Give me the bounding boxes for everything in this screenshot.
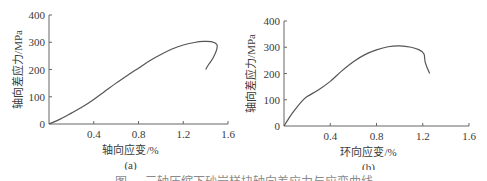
panel-b-stress-strain-curve: [284, 46, 430, 126]
x-tick-label: 0.8: [132, 128, 146, 140]
panel-b-x-axis-label: 环向应变/%: [340, 145, 396, 158]
y-tick-label: 100: [264, 94, 281, 106]
panel-a-stress-strain-curve: [49, 41, 217, 124]
panel-b-y-axis-label: 轴向差应力/MPa: [245, 34, 257, 113]
x-tick-label: 1.2: [416, 130, 430, 142]
y-tick-label: 200: [264, 68, 281, 80]
x-tick-label: 0.4: [323, 130, 337, 142]
y-tick-label: 400: [29, 9, 46, 21]
y-tick-label: 400: [264, 15, 281, 27]
x-tick-label: 1.6: [221, 128, 235, 140]
y-tick-label: 300: [264, 41, 281, 53]
stress-strain-plot-a: 01002003004000.40.81.21.6轴向应变/%轴向差应力/MPa…: [0, 0, 245, 170]
figure-caption: 图 … 三轴压缩下砂岩样块轴向差应力与应变曲线: [0, 175, 487, 181]
x-tick-label: 1.6: [462, 130, 476, 142]
x-tick-label: 1.2: [176, 128, 190, 140]
x-tick-label: 0.8: [370, 130, 384, 142]
figure-caption-clipped: 图 … 三轴压缩下砂岩样块轴向差应力与应变曲线: [0, 175, 487, 181]
panel-a-x-axis-label: 轴向应变/%: [102, 143, 158, 156]
stress-strain-plot-b: 01002003004000.40.81.21.6环向应变/%轴向差应力/MPa…: [245, 0, 487, 170]
y-tick-label: 200: [29, 64, 46, 76]
panel-b-panel-label: (b): [362, 161, 375, 170]
panel-a-panel-label: (a): [124, 159, 137, 170]
chart-panel-b: 01002003004000.40.81.21.6环向应变/%轴向差应力/MPa…: [245, 0, 487, 170]
y-tick-label: 100: [29, 91, 46, 103]
chart-panel-a: 01002003004000.40.81.21.6轴向应变/%轴向差应力/MPa…: [0, 0, 245, 170]
y-tick-label: 300: [29, 36, 46, 48]
x-tick-label: 0.4: [87, 128, 101, 140]
y-tick-label: 0: [275, 120, 281, 132]
y-tick-label: 0: [40, 118, 46, 130]
panel-a-y-axis-label: 轴向差应力/MPa: [11, 30, 24, 109]
